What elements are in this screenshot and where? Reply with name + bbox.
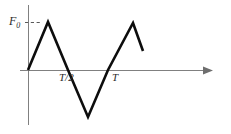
waveform-figure: F0 T/2 T	[0, 0, 231, 134]
x-axis-arrowhead	[203, 67, 213, 75]
waveform-path	[28, 22, 143, 117]
y-axis-label-amplitude: F0	[9, 15, 20, 30]
plot-canvas	[0, 0, 231, 134]
x-axis-tick-label-half-period: T/2	[59, 72, 74, 83]
x-axis-tick-label-period: T	[112, 72, 118, 83]
amplitude-subscript: 0	[16, 21, 20, 30]
